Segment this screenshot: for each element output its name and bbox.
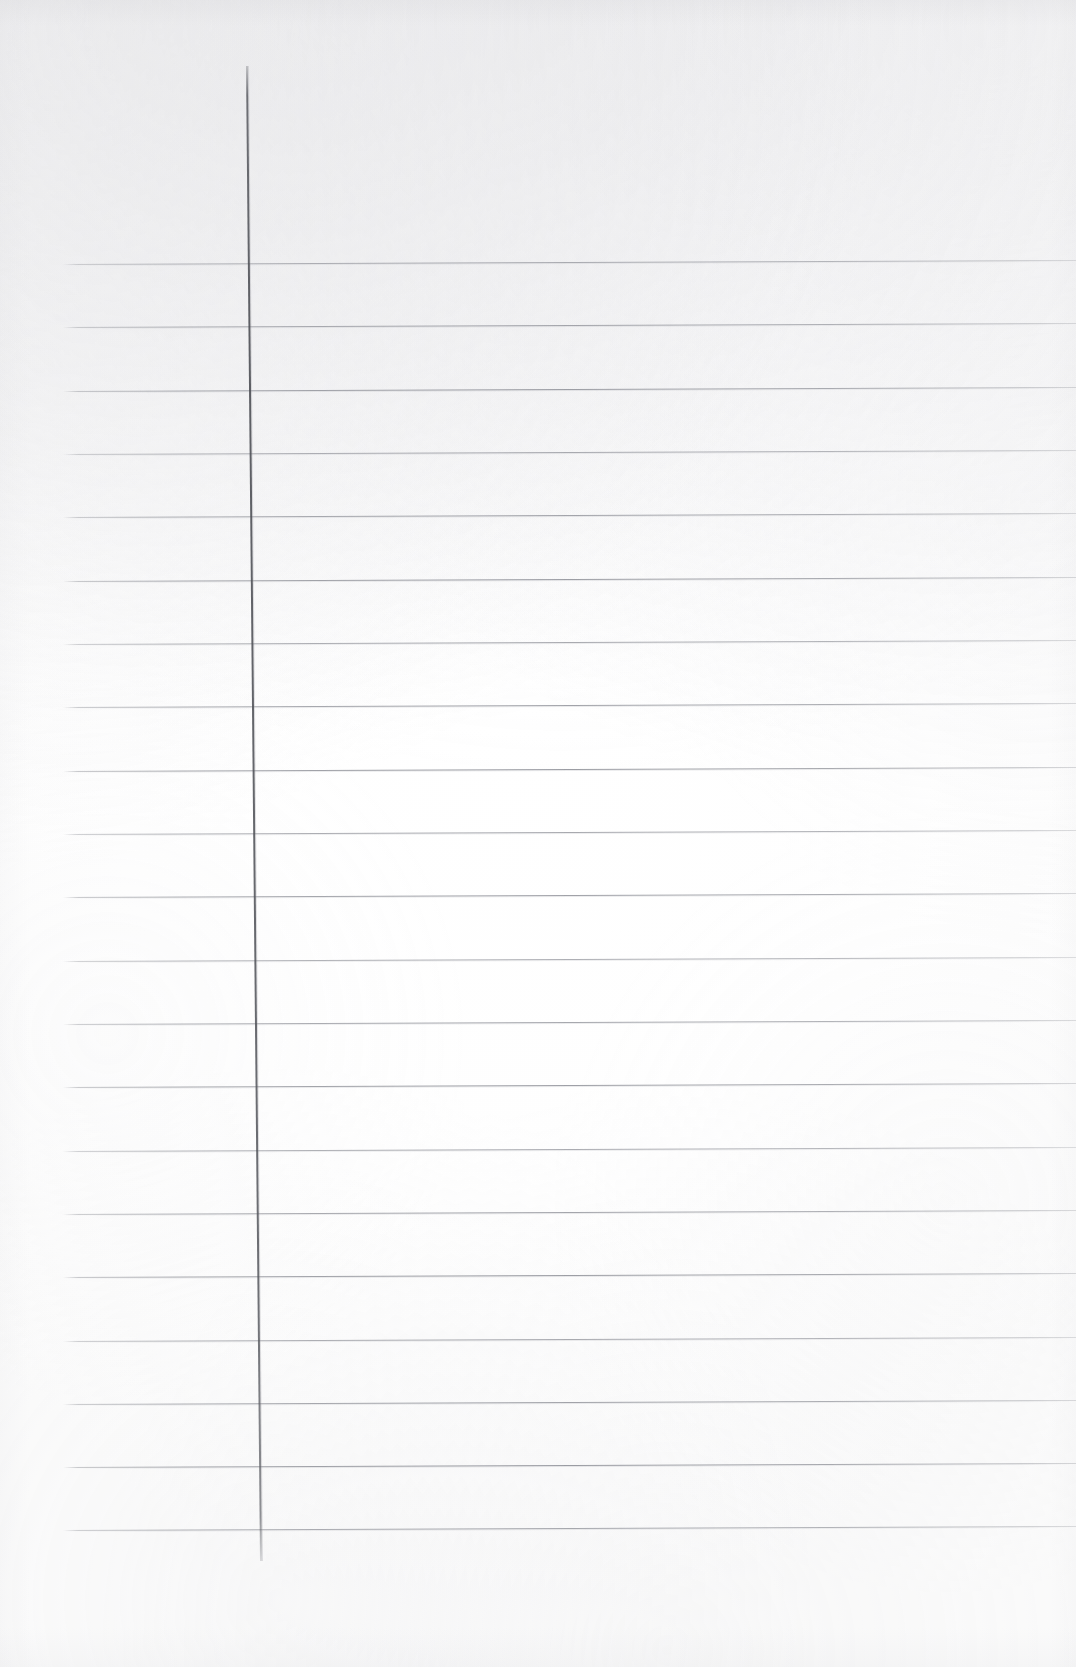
scanned-page — [0, 0, 1076, 1667]
